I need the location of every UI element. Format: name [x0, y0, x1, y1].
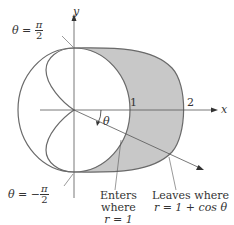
top-leader-line [62, 36, 73, 47]
tick-label-2: 2 [187, 97, 194, 109]
angle-label: θ [103, 116, 110, 128]
polar-region-figure: y x 1 2 θ θ = π2 θ = −π2 Enters where r … [0, 0, 234, 225]
enters-label: Enters where r = 1 [100, 190, 137, 225]
bottom-leader-line [64, 174, 73, 186]
top-angle-fraction: π2 [35, 20, 44, 41]
bottom-angle-den: 2 [41, 195, 47, 205]
top-angle-lhs: θ = [12, 24, 35, 37]
leaves-line-2: r = 1 + cos θ [152, 202, 229, 214]
x-axis-arrow-icon [211, 108, 218, 113]
y-axis-label: y [73, 6, 79, 18]
bottom-angle-label: θ = −π2 [8, 184, 49, 205]
leaves-leader-line [169, 157, 176, 190]
ray-arrow-icon [196, 165, 204, 170]
top-angle-label: θ = π2 [12, 20, 43, 41]
bottom-angle-lhs: θ = − [8, 188, 40, 201]
enters-line-3: r = 1 [100, 214, 137, 225]
leaves-label: Leaves where r = 1 + cos θ [152, 190, 229, 214]
x-axis-label: x [221, 104, 227, 116]
top-angle-den: 2 [36, 31, 42, 41]
bottom-angle-fraction: π2 [40, 184, 49, 205]
tick-label-1: 1 [130, 97, 137, 109]
